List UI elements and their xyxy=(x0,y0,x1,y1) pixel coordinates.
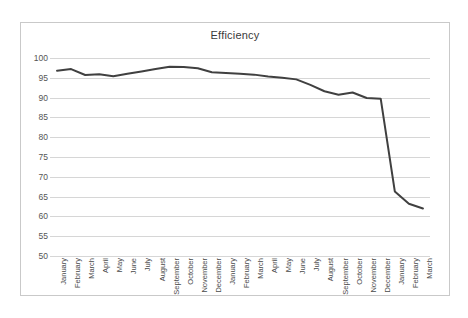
x-tick-label-25: February xyxy=(412,258,420,288)
x-tick-label-3: April xyxy=(102,258,110,273)
x-tick-label-24: January xyxy=(398,258,406,285)
x-tick-label-15: April xyxy=(271,258,279,273)
x-tick-label-2: March xyxy=(88,258,96,279)
y-tick-label-100: 100 xyxy=(22,54,48,63)
x-tick-label-6: July xyxy=(144,258,152,271)
line-series-svg xyxy=(50,58,430,256)
x-tick-label-19: August xyxy=(327,258,335,281)
chart-title: Efficiency xyxy=(21,29,449,41)
y-tick-label-55: 55 xyxy=(22,232,48,241)
x-tick-label-14: March xyxy=(257,258,265,279)
x-tick-label-11: December xyxy=(215,258,223,293)
x-tick-label-5: June xyxy=(130,258,138,274)
x-tick-label-8: September xyxy=(173,258,181,295)
x-tick-label-1: February xyxy=(74,258,82,288)
y-tick-label-90: 90 xyxy=(22,94,48,103)
y-tick-label-50: 50 xyxy=(22,252,48,261)
y-tick-label-75: 75 xyxy=(22,153,48,162)
y-axis: 50556065707580859095100 xyxy=(18,58,48,256)
x-tick-label-21: October xyxy=(356,258,364,285)
plot-area xyxy=(50,58,430,256)
x-tick-label-26: March xyxy=(426,258,434,279)
y-tick-label-60: 60 xyxy=(22,212,48,221)
y-tick-label-95: 95 xyxy=(22,74,48,83)
x-tick-label-9: October xyxy=(187,258,195,285)
x-tick-label-20: September xyxy=(342,258,350,295)
x-tick-label-4: May xyxy=(116,258,124,272)
x-tick-label-10: November xyxy=(201,258,209,293)
x-tick-label-0: January xyxy=(60,258,68,285)
x-tick-label-23: December xyxy=(384,258,392,293)
x-axis: JanuaryFebruaryMarchAprilMayJuneJulyAugu… xyxy=(50,258,430,314)
x-tick-label-18: July xyxy=(313,258,321,271)
y-tick-label-80: 80 xyxy=(22,133,48,142)
x-tick-label-16: May xyxy=(285,258,293,272)
x-tick-label-22: November xyxy=(370,258,378,293)
y-tick-label-65: 65 xyxy=(22,193,48,202)
y-tick-label-85: 85 xyxy=(22,113,48,122)
y-tick-label-70: 70 xyxy=(22,173,48,182)
x-tick-label-12: January xyxy=(229,258,237,285)
x-tick-label-7: August xyxy=(159,258,167,281)
x-tick-label-13: February xyxy=(243,258,251,288)
efficiency-line xyxy=(57,67,423,209)
x-tick-label-17: June xyxy=(299,258,307,274)
